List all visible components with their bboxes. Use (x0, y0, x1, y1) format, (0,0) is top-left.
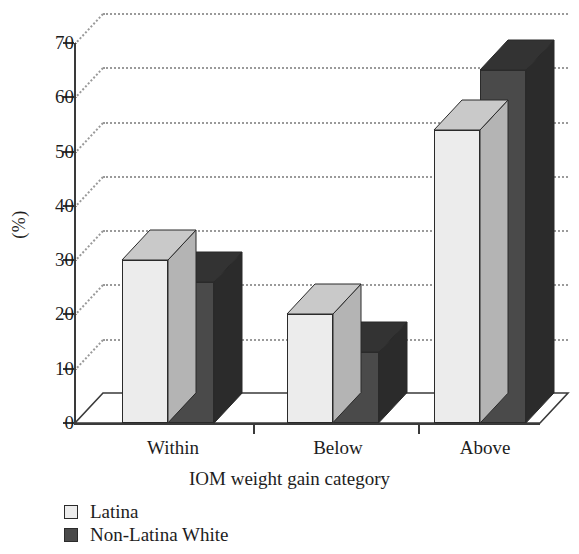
gridline-connector (74, 285, 103, 316)
bar-front-face (434, 130, 480, 423)
x-axis-line (74, 423, 540, 425)
x-axis-label-below: Below (278, 437, 398, 459)
gridline-connector (74, 68, 103, 99)
y-axis-tick-label: 10 (36, 359, 74, 378)
y-axis-tick-label: 30 (36, 250, 74, 269)
bar-front-face (122, 260, 168, 423)
gridline (103, 13, 568, 15)
y-axis-tick-label: 0 (36, 413, 74, 432)
legend-item-latina: Latina (64, 500, 228, 523)
x-axis-label-above: Above (425, 437, 545, 459)
legend-label-non-latina-white: Non-Latina White (90, 525, 228, 544)
y-axis-tick-label: 70 (36, 33, 74, 52)
bar-front-face (287, 314, 333, 423)
bar-chart: 010203040506070 (%) WithinBelowAbove IOM… (0, 0, 579, 554)
gridline-connector (74, 176, 103, 207)
y-axis-title: (%) (9, 195, 30, 255)
gridline-connector (74, 339, 103, 370)
bar-within-latina (122, 230, 168, 423)
y-axis-line (74, 43, 76, 424)
y-axis-tick-label: 40 (36, 196, 74, 215)
y-axis-tick-label: 20 (36, 304, 74, 323)
x-axis-title: IOM weight gain category (0, 468, 579, 490)
bar-below-latina (287, 284, 333, 423)
y-axis-tick-label: 50 (36, 142, 74, 161)
legend-item-non-latina-white: Non-Latina White (64, 523, 228, 546)
legend: Latina Non-Latina White (64, 500, 228, 546)
gridline-connector (74, 13, 103, 44)
legend-swatch-icon-latina (64, 505, 78, 519)
legend-label-latina: Latina (90, 502, 139, 521)
gridline-connector (74, 122, 103, 153)
gridline-connector (74, 230, 103, 261)
legend-swatch-icon-non-latina-white (64, 528, 78, 542)
x-axis-tick-mark (253, 424, 255, 434)
x-axis-tick-mark (418, 424, 420, 434)
x-axis-label-within: Within (113, 437, 233, 459)
y-axis-tick-label: 60 (36, 87, 74, 106)
bar-above-latina (434, 100, 480, 423)
